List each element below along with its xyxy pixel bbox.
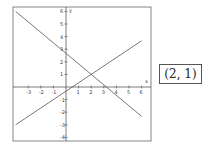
x-tick-label: -3 [26, 89, 31, 95]
x-tick-label: 6 [140, 89, 143, 95]
x-axis-label: x [145, 78, 148, 84]
graph-line [16, 41, 142, 125]
axis-ticks [28, 11, 141, 137]
y-tick-label: -1 [60, 97, 65, 103]
x-tick-label: -2 [39, 89, 44, 95]
plotted-lines [16, 11, 142, 124]
tick-labels: -3-2-1123456654321-1-2-3-4 [26, 8, 143, 140]
y-tick-label: -2 [60, 109, 65, 115]
y-tick-label: 2 [60, 59, 63, 65]
coordinate-graph: -3-2-1123456654321-1-2-3-4 x y [0, 0, 155, 146]
y-tick-label: -3 [60, 122, 65, 128]
y-tick-label: 5 [60, 21, 63, 27]
x-tick-label: 5 [127, 89, 130, 95]
y-tick-label: 1 [60, 71, 63, 77]
answer-text: (2, 1) [164, 67, 196, 81]
x-tick-label: 2 [89, 89, 92, 95]
x-tick-label: 1 [77, 89, 80, 95]
graph-line [16, 11, 142, 116]
x-tick-label: -1 [51, 89, 56, 95]
y-tick-label: 4 [60, 34, 63, 40]
y-tick-label: -4 [60, 134, 65, 140]
plot-frame [13, 7, 151, 141]
y-tick-label: 6 [60, 8, 63, 14]
y-axis-label: y [69, 7, 72, 14]
answer-box: (2, 1) [159, 64, 202, 84]
x-tick-label: 3 [102, 89, 105, 95]
